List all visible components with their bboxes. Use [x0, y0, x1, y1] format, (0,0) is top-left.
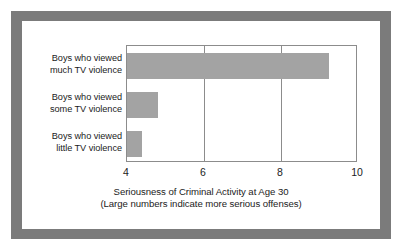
category-label-line: little TV violence: [22, 143, 122, 155]
category-label-line: some TV violence: [22, 104, 122, 116]
x-axis-title-note: (Large numbers indicate more serious off…: [22, 198, 380, 210]
bar-little-tv-violence: [127, 131, 142, 157]
x-tick-label: 4: [111, 166, 141, 178]
category-label-line: much TV violence: [22, 65, 122, 77]
x-axis-tick-labels: 4 6 8 10: [0, 166, 402, 182]
category-axis-labels: Boys who viewed much TV violence Boys wh…: [22, 45, 122, 162]
bar-some-tv-violence: [127, 92, 158, 118]
plot-area: [126, 45, 357, 162]
category-label-line: Boys who viewed: [22, 92, 122, 104]
category-label-much-tv-violence: Boys who viewed much TV violence: [22, 53, 122, 76]
category-label-some-tv-violence: Boys who viewed some TV violence: [22, 92, 122, 115]
category-label-line: Boys who viewed: [22, 53, 122, 65]
x-axis-title-main: Seriousness of Criminal Activity at Age …: [22, 186, 380, 198]
x-axis-title: Seriousness of Criminal Activity at Age …: [22, 186, 380, 211]
bar-much-tv-violence: [127, 53, 329, 79]
category-label-line: Boys who viewed: [22, 131, 122, 143]
category-label-little-tv-violence: Boys who viewed little TV violence: [22, 131, 122, 154]
x-tick-label: 8: [265, 166, 295, 178]
figure-root: Boys who viewed much TV violence Boys wh…: [0, 0, 402, 252]
x-tick-label: 10: [342, 166, 372, 178]
x-tick-label: 6: [188, 166, 218, 178]
